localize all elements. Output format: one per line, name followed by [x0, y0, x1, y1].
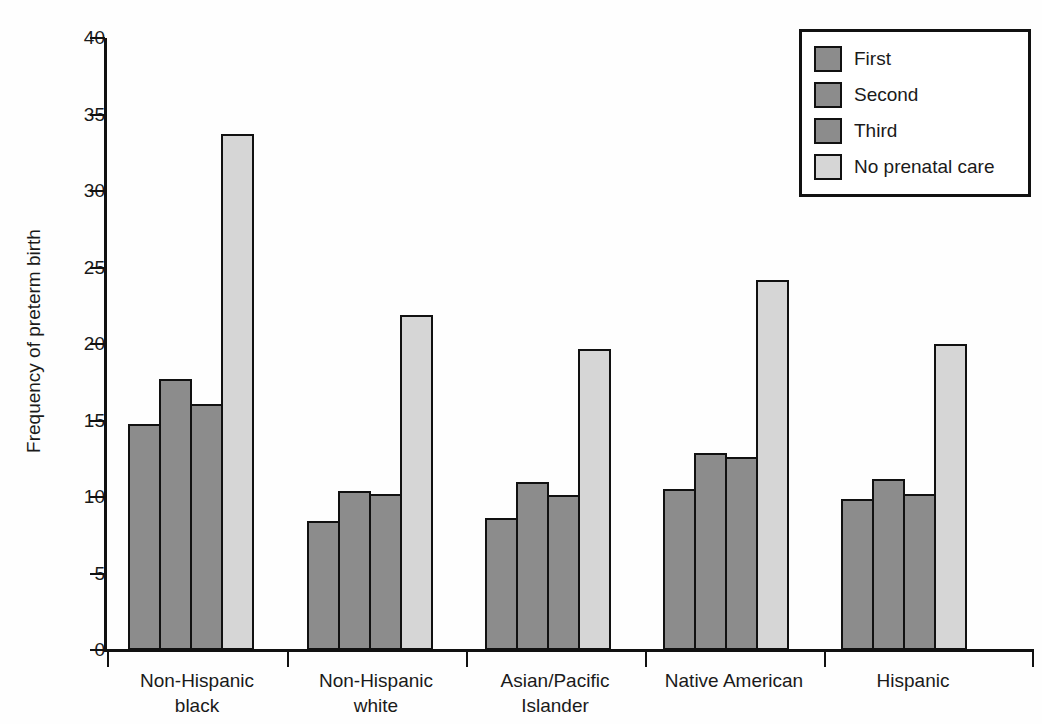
bar[interactable]: [756, 280, 789, 650]
y-tick-20: 20: [0, 334, 105, 353]
y-tick-mark: [90, 573, 105, 575]
bar[interactable]: [516, 482, 549, 650]
bar[interactable]: [307, 521, 340, 650]
y-axis-title: Frequency of preterm birth: [23, 111, 45, 571]
bar[interactable]: [485, 518, 518, 650]
bar[interactable]: [841, 499, 874, 650]
legend-item-3[interactable]: Third: [814, 113, 1018, 149]
x-axis-separator-tick: [824, 649, 826, 667]
bar[interactable]: [400, 315, 433, 650]
bar-group-bars: [128, 38, 252, 650]
y-tick-10: 10: [0, 487, 105, 506]
chart-legend: FirstSecondThirdNo prenatal care: [799, 29, 1031, 197]
bar-group-bars: [485, 38, 609, 650]
bar[interactable]: [128, 424, 161, 650]
legend-item-1[interactable]: First: [814, 41, 1018, 77]
y-tick-mark: [90, 267, 105, 269]
bar[interactable]: [190, 404, 223, 650]
y-tick-mark: [90, 343, 105, 345]
bar[interactable]: [725, 457, 758, 650]
legend-item-2[interactable]: Second: [814, 77, 1018, 113]
bar-group-bars: [307, 38, 431, 650]
x-axis-label-5: Hispanic: [793, 668, 1033, 693]
bar[interactable]: [663, 489, 696, 650]
x-axis-separator-tick: [645, 649, 647, 667]
bar[interactable]: [872, 479, 905, 650]
bar[interactable]: [221, 134, 254, 650]
y-tick-mark: [90, 37, 105, 39]
x-axis-separator-tick: [1032, 649, 1034, 667]
bar[interactable]: [338, 491, 371, 650]
bar[interactable]: [578, 349, 611, 650]
y-tick-mark: [90, 114, 105, 116]
y-tick-35: 35: [0, 105, 105, 124]
y-tick-40: 40: [0, 28, 105, 47]
bar[interactable]: [934, 344, 967, 650]
bar[interactable]: [547, 495, 580, 650]
bar[interactable]: [159, 379, 192, 650]
y-tick-mark: [90, 496, 105, 498]
y-tick-25: 25: [0, 258, 105, 277]
legend-label: Third: [854, 120, 897, 142]
y-tick-30: 30: [0, 181, 105, 200]
legend-label: Second: [854, 84, 918, 106]
x-axis-label-line: Islander: [435, 693, 675, 718]
y-tick-15: 15: [0, 411, 105, 430]
legend-swatch-icon: [814, 154, 842, 180]
legend-swatch-icon: [814, 118, 842, 144]
legend-swatch-icon: [814, 82, 842, 108]
bar-chart-figure: 0510152025303540 Frequency of preterm bi…: [0, 0, 1042, 724]
y-tick-mark: [90, 190, 105, 192]
legend-swatch-icon: [814, 46, 842, 72]
y-tick-0: 0: [0, 640, 105, 659]
bar-group-bars: [663, 38, 787, 650]
bar[interactable]: [903, 494, 936, 650]
x-axis-separator-tick: [107, 649, 109, 667]
y-tick-5: 5: [0, 564, 105, 583]
bar[interactable]: [369, 494, 402, 650]
x-axis-separator-tick: [287, 649, 289, 667]
legend-label: First: [854, 48, 891, 70]
y-tick-mark: [90, 420, 105, 422]
legend-label: No prenatal care: [854, 156, 994, 178]
x-axis-label-line: Hispanic: [793, 668, 1033, 693]
y-tick-mark: [90, 649, 105, 651]
x-axis-separator-tick: [466, 649, 468, 667]
bar[interactable]: [694, 453, 727, 650]
legend-item-4[interactable]: No prenatal care: [814, 149, 1018, 185]
